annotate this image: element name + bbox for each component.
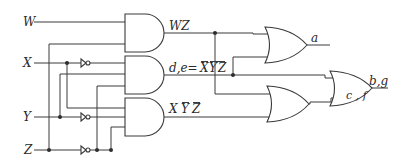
- label-a: a: [311, 31, 318, 45]
- input-label-x: X: [22, 56, 32, 70]
- and-gate-3: [125, 98, 164, 136]
- label-bg: b,g: [369, 74, 388, 88]
- label-wz: WZ: [169, 19, 190, 33]
- input-label-z: Z: [23, 143, 33, 157]
- wire-wz-to-or-a: [253, 33, 268, 34]
- label-and3-y: Y: [181, 102, 190, 116]
- label-de: d,e= X Y Z: [169, 61, 227, 75]
- inverter-z: [81, 146, 90, 154]
- and-gate-2: [125, 56, 164, 94]
- wire-z-not-to-and3: [111, 127, 125, 150]
- label-de-prefix: d,e=: [169, 61, 198, 75]
- wire-de-to-or-a: [233, 57, 268, 75]
- label-and3-z: Z: [191, 102, 201, 116]
- wire-cf-to-or-bg: [309, 98, 334, 104]
- wire-y-to-and2: [60, 74, 125, 117]
- label-de-y: Y: [209, 61, 218, 75]
- or-gate-cf: [267, 86, 309, 122]
- label-cf: c , f: [346, 89, 369, 102]
- input-label-y: Y: [23, 110, 32, 124]
- label-and3: X Y Z: [168, 102, 201, 116]
- logic-circuit-diagram: W X Y Z: [0, 0, 407, 162]
- inverter-x: [81, 59, 90, 67]
- or-gate-a: [265, 27, 307, 63]
- and-gate-1: [125, 14, 164, 52]
- label-de-x: X: [199, 61, 209, 75]
- label-de-z: Z: [217, 61, 227, 75]
- label-and3-x: X: [168, 102, 178, 116]
- inverter-y: [81, 113, 90, 121]
